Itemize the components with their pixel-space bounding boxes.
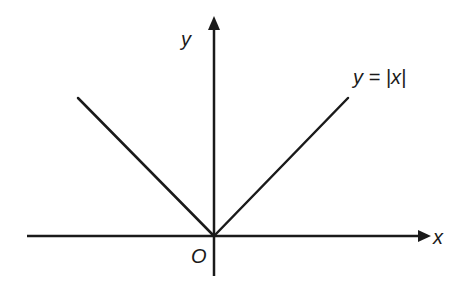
y-axis-arrow-icon xyxy=(208,16,220,30)
y-axis-label: y xyxy=(181,29,191,49)
function-label: y = |x| xyxy=(353,67,406,87)
left-branch-line xyxy=(78,98,214,236)
right-branch-line xyxy=(214,98,348,236)
graph-canvas xyxy=(0,0,461,290)
absolute-value-graph: y y = |x| O x xyxy=(0,0,461,290)
x-axis-arrow-icon xyxy=(418,230,431,242)
origin-label: O xyxy=(191,246,207,266)
x-axis-label: x xyxy=(433,227,443,247)
